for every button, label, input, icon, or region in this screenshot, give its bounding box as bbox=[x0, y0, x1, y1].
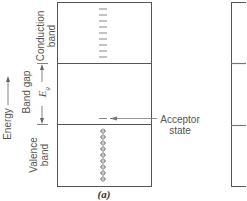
valence-holes bbox=[100, 129, 106, 182]
panel-b-frame bbox=[232, 3, 247, 187]
conduction-states bbox=[99, 9, 107, 57]
acceptor-state-label: Acceptor state bbox=[158, 114, 202, 136]
arrow-up-icon bbox=[6, 76, 10, 82]
gap-symbol: Eg bbox=[37, 83, 49, 101]
arrow-left-icon bbox=[110, 117, 117, 121]
hole-icon bbox=[100, 129, 106, 133]
arrow-down-icon bbox=[40, 118, 44, 124]
hole-icon bbox=[100, 147, 106, 151]
energy-axis-label: Energy bbox=[2, 100, 14, 148]
conduction-band-label: Conduction band bbox=[35, 6, 59, 66]
hole-icon bbox=[100, 135, 106, 139]
hole-icon bbox=[100, 141, 106, 145]
panel-a-caption: (a) bbox=[92, 189, 116, 200]
hole-icon bbox=[100, 159, 106, 163]
hole-icon bbox=[100, 171, 106, 175]
hole-icon bbox=[100, 165, 106, 169]
hole-icon bbox=[100, 177, 106, 181]
valence-band-label: Valence band bbox=[28, 125, 52, 185]
panel-a-frame bbox=[58, 3, 152, 187]
band-gap-label: Band gap bbox=[21, 62, 33, 122]
hole-icon bbox=[100, 153, 106, 157]
